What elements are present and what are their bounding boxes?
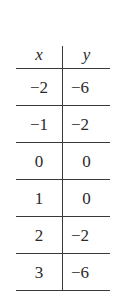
cell-y: −6 — [63, 69, 110, 105]
cell-y: −6 — [63, 254, 110, 290]
cell-x: 1 — [16, 180, 63, 216]
cell-y: −2 — [63, 106, 110, 142]
cell-y: 0 — [63, 180, 110, 216]
table-row: 0 0 — [16, 143, 110, 180]
header-x: x — [16, 46, 63, 68]
cell-x: −1 — [16, 106, 63, 142]
cell-y: 0 — [63, 143, 110, 179]
table-row: −1 −2 — [16, 106, 110, 143]
table-row: −2 −6 — [16, 69, 110, 106]
xy-value-table: x y −2 −6 −1 −2 0 0 1 0 2 −2 3 −6 — [16, 46, 110, 291]
cell-y: −2 — [63, 217, 110, 253]
table-row: 1 0 — [16, 180, 110, 217]
cell-x: 3 — [16, 254, 63, 290]
cell-x: 0 — [16, 143, 63, 179]
header-y: y — [63, 46, 110, 68]
table-row: 2 −2 — [16, 217, 110, 254]
cell-x: 2 — [16, 217, 63, 253]
table-row: 3 −6 — [16, 254, 110, 291]
cell-x: −2 — [16, 69, 63, 105]
table-header-row: x y — [16, 46, 110, 69]
